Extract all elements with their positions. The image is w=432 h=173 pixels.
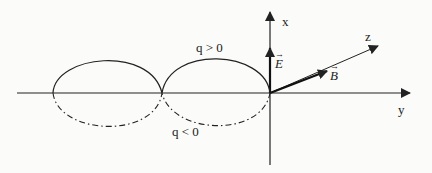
negative-charge-trajectory — [53, 93, 270, 126]
b-vector-arrow-accent: → — [330, 61, 339, 71]
b-field-vector — [270, 71, 327, 93]
y-axis-label: y — [398, 102, 405, 117]
z-axis-label: z — [365, 29, 371, 44]
positive-charge-trajectory — [53, 59, 270, 93]
x-axis-label: x — [282, 14, 289, 29]
e-vector-arrow-accent: → — [275, 49, 284, 59]
negative-charge-label: q < 0 — [172, 124, 199, 139]
cycloid-diagram: x y z E → B → q > 0 q < 0 — [0, 0, 432, 173]
positive-charge-label: q > 0 — [196, 40, 223, 55]
